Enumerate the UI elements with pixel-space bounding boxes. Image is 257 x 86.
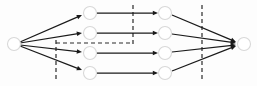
node-circle-m1-1 [84,7,97,20]
node-circle-m1-3 [84,47,97,60]
network-diagram-canvas [0,0,257,86]
node-circle-m2-1 [159,7,172,20]
node-m2-4 [159,67,172,80]
node-circle-sink [238,38,251,51]
node-sink [238,38,251,51]
node-circle-m1-4 [84,67,97,80]
node-m2-3 [159,47,172,60]
node-circle-m2-4 [159,67,172,80]
node-circle-source [8,38,21,51]
network-flow-figure [0,0,257,86]
node-m1-3 [84,47,97,60]
node-m1-2 [84,27,97,40]
node-circle-m1-2 [84,27,97,40]
node-m2-2 [159,27,172,40]
node-source [8,38,21,51]
node-m2-1 [159,7,172,20]
node-m1-4 [84,67,97,80]
node-m1-1 [84,7,97,20]
node-circle-m2-3 [159,47,172,60]
node-circle-m2-2 [159,27,172,40]
